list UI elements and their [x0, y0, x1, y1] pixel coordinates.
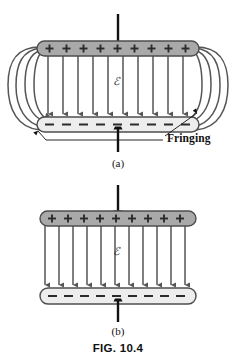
- panel-a-fringing-right: [191, 47, 228, 130]
- panel-b-label: (b): [0, 326, 236, 337]
- panel-b-field-symbol: ℰ: [113, 245, 121, 257]
- figure-canvas: ℰ: [0, 0, 236, 359]
- panel-b-top-terminal-lead: [114, 185, 123, 214]
- panel-b-group: ℰ: [40, 185, 196, 322]
- fringing-annotation-label: Fringing: [167, 133, 211, 145]
- panel-b-top-plate-charges: [48, 215, 184, 223]
- panel-a-top-plate: [37, 41, 199, 56]
- figure-caption: FIG. 10.4: [0, 343, 236, 355]
- panel-b-top-plate: [40, 211, 196, 226]
- panel-a-field-symbol: ℰ: [113, 75, 121, 87]
- panel-a-fringing-left: [8, 47, 45, 130]
- panel-a-label: (a): [0, 158, 236, 169]
- panel-a-top-plate-charges: [46, 45, 190, 53]
- figure-10-4: ℰ: [0, 0, 236, 359]
